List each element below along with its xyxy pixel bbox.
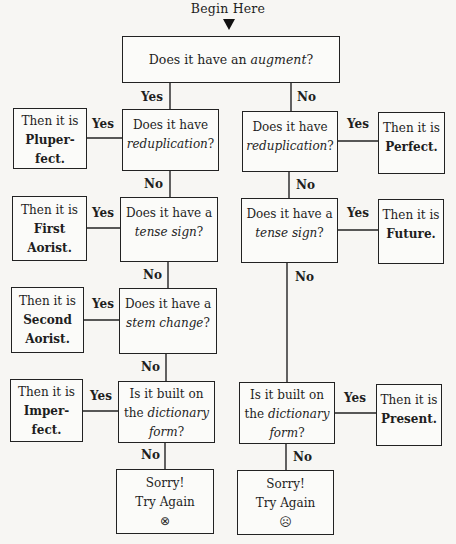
augment-question-prefix: Does it have an <box>149 52 251 67</box>
question-mark: ? <box>317 226 323 240</box>
question-text: the <box>245 407 268 421</box>
augment-question-box: Does it have an augment? <box>122 36 340 83</box>
result-prefix: Then it is <box>383 119 440 138</box>
question-mark: ? <box>327 139 333 153</box>
question-mark: ? <box>306 52 313 67</box>
result-pluperfect-box: Then it is Pluper- fect. <box>13 108 87 169</box>
left-sorry-try-again-box: Sorry! Try Again ⊗ <box>116 469 214 534</box>
form-term: form <box>269 426 298 440</box>
result-tense-name: Pluper- <box>25 131 75 150</box>
left-stem-change-question-box: Does it have a stem change? <box>119 288 217 354</box>
result-prefix: Then it is <box>21 201 78 220</box>
right-sorry-try-again-box: Sorry! Try Again ☹ <box>237 470 334 535</box>
question-text: Does it have a <box>246 205 332 224</box>
sad-face-icon: ☹ <box>279 513 292 532</box>
question-text: Does it have a <box>125 295 211 314</box>
dictionary-term: dictionary <box>268 407 330 421</box>
result-tense-name: fect. <box>32 421 62 440</box>
result-prefix: Then it is <box>383 206 440 225</box>
edge-label-no: No <box>295 270 314 284</box>
result-present-box: Then it is Present. <box>376 384 442 446</box>
result-prefix: Then it is <box>381 391 438 410</box>
question-text: Does it have a <box>126 204 212 223</box>
result-tense-name: Aorist. <box>27 239 72 258</box>
question-mark: ? <box>203 316 209 330</box>
result-perfect-box: Then it is Perfect. <box>378 112 445 174</box>
edge-label-no: No <box>293 450 312 464</box>
result-prefix: Then it is <box>22 112 79 131</box>
question-mark: ? <box>178 425 184 439</box>
edge-label-yes: Yes <box>344 391 366 405</box>
result-tense-name: First <box>34 220 66 239</box>
edge-label-yes: Yes <box>141 90 163 104</box>
tense-sign-term: tense sign <box>135 225 197 239</box>
question-text: the <box>124 406 147 420</box>
tense-sign-term: tense sign <box>255 226 317 240</box>
edge-label-no: No <box>141 448 160 462</box>
edge-label-no: No <box>143 268 162 282</box>
question-mark: ? <box>197 225 203 239</box>
right-reduplication-question-box: Does it have reduplication? <box>242 111 338 172</box>
reduplication-term: reduplication <box>127 137 208 151</box>
result-future-box: Then it is Future. <box>378 199 444 264</box>
result-tense-name: Future. <box>386 225 435 244</box>
right-dictionary-form-question-box: Is it built on the dictionary form? <box>239 382 335 444</box>
question-text: Does it have <box>133 116 208 135</box>
edge-label-no: No <box>296 178 315 192</box>
question-text: Is it built on <box>130 385 204 404</box>
left-reduplication-question-box: Does it have reduplication? <box>122 109 219 171</box>
right-tense-sign-question-box: Does it have a tense sign? <box>241 198 338 263</box>
result-prefix: Then it is <box>18 383 75 402</box>
result-tense-name: Aorist. <box>25 330 70 349</box>
left-tense-sign-question-box: Does it have a tense sign? <box>120 197 218 262</box>
form-term: form <box>149 425 178 439</box>
edge-label-yes: Yes <box>347 117 369 131</box>
question-text: Is it built on <box>250 386 324 405</box>
result-tense-name: Perfect. <box>385 138 437 157</box>
question-text: Does it have <box>252 118 327 137</box>
left-dictionary-form-question-box: Is it built on the dictionary form? <box>118 381 215 443</box>
reduplication-term: reduplication <box>246 139 327 153</box>
dictionary-term: dictionary <box>147 406 209 420</box>
edge-label-yes: Yes <box>347 206 369 220</box>
try-again-text: Try Again <box>135 493 194 512</box>
stem-change-term: stem change <box>126 316 203 330</box>
result-tense-name: Second <box>23 311 72 330</box>
result-prefix: Then it is <box>19 292 76 311</box>
result-imperfect-box: Then it is Imper- fect. <box>10 379 83 442</box>
edge-label-no: No <box>144 177 163 191</box>
result-tense-name: Imper- <box>24 402 70 421</box>
result-tense-name: Present. <box>381 410 437 429</box>
result-second-aorist-box: Then it is Second Aorist. <box>11 287 84 353</box>
edge-label-no: No <box>141 360 160 374</box>
edge-label-no: No <box>297 90 316 104</box>
augment-term: augment <box>251 52 307 67</box>
edge-label-yes: Yes <box>90 389 112 403</box>
edge-label-yes: Yes <box>92 117 114 131</box>
sorry-text: Sorry! <box>146 474 185 493</box>
result-tense-name: fect. <box>35 150 65 169</box>
question-mark: ? <box>298 426 304 440</box>
sorry-text: Sorry! <box>266 475 305 494</box>
sad-face-icon: ⊗ <box>160 512 170 531</box>
question-mark: ? <box>208 137 214 151</box>
edge-label-yes: Yes <box>92 297 114 311</box>
try-again-text: Try Again <box>256 494 315 513</box>
edge-label-yes: Yes <box>92 206 114 220</box>
result-first-aorist-box: Then it is First Aorist. <box>12 196 87 261</box>
